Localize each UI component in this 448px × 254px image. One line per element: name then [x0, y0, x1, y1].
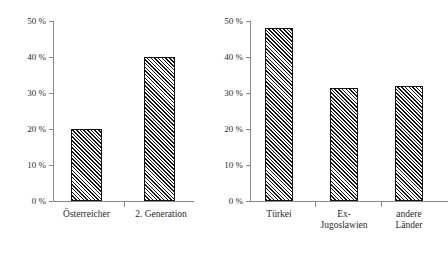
y-tick-left	[49, 57, 54, 58]
y-tick-label-right: 40 %	[205, 53, 243, 62]
chart-panel-right: 50 % 40 % 30 % 20 % 10 % 0 % Türkei Ex- …	[215, 0, 448, 254]
y-tick-label-right: 0 %	[205, 197, 243, 206]
y-axis-line-left	[53, 21, 54, 201]
y-tick-label-left: 20 %	[8, 125, 46, 134]
y-axis-line-right	[250, 21, 251, 201]
y-tick-label-left: 30 %	[8, 89, 46, 98]
chart-panel-left: 50 % 40 % 30 % 20 % 10 % 0 % Österreiche…	[0, 0, 224, 254]
y-tick-right	[246, 201, 251, 202]
y-tick-label-right: 20 %	[205, 125, 243, 134]
y-tick-label-left: 0 %	[8, 197, 46, 206]
y-tick-left	[49, 93, 54, 94]
y-tick-right	[246, 165, 251, 166]
x-tick-label-oesterreicher: Österreicher	[46, 209, 127, 220]
y-tick-label-left: 40 %	[8, 53, 46, 62]
y-tick-right	[246, 93, 251, 94]
y-tick-right	[246, 57, 251, 58]
y-tick-right	[246, 21, 251, 22]
y-tick-label-left: 10 %	[8, 161, 46, 170]
bar-ex-jugoslawien	[330, 88, 358, 201]
y-tick-right	[246, 129, 251, 130]
x-tick-left	[124, 202, 125, 207]
x-tick-right	[381, 202, 382, 207]
y-tick-label-right: 30 %	[205, 89, 243, 98]
y-tick-left	[49, 165, 54, 166]
x-tick-label-2-generation: 2. Generation	[120, 209, 202, 220]
y-tick-left	[49, 201, 54, 202]
y-tick-left	[49, 21, 54, 22]
x-tick-right	[315, 202, 316, 207]
y-tick-label-right: 50 %	[205, 17, 243, 26]
bar-andere-laender	[395, 86, 423, 201]
y-tick-label-left: 50 %	[8, 17, 46, 26]
y-tick-left	[49, 129, 54, 130]
bar-2-generation	[144, 57, 175, 201]
bar-tuerkei	[265, 28, 293, 201]
x-axis-line-right	[250, 201, 448, 202]
y-tick-label-right: 10 %	[205, 161, 243, 170]
x-tick-label-andere-laender: andere Länder	[369, 209, 448, 231]
bar-chart-figure: 50 % 40 % 30 % 20 % 10 % 0 % Österreiche…	[0, 0, 448, 254]
bar-oesterreicher	[71, 129, 102, 201]
